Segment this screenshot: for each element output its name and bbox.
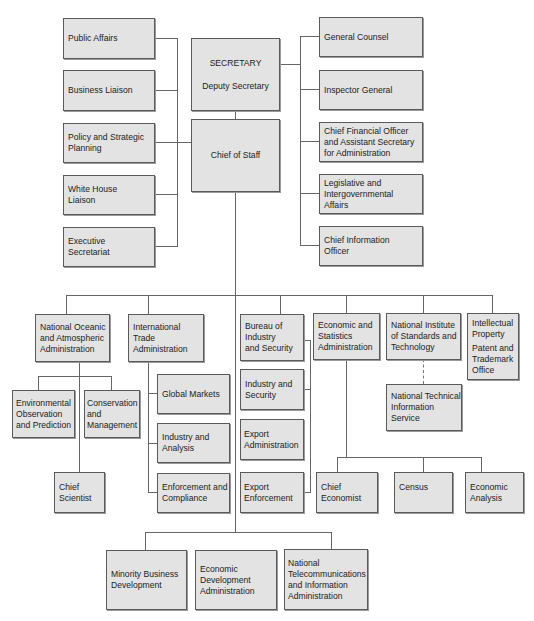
connector xyxy=(303,389,310,390)
cio-box: Chief Information Officer xyxy=(319,226,423,266)
box-label: Planning xyxy=(68,143,150,154)
noaa-box: National Oceanic and Atmospheric Adminis… xyxy=(35,314,110,362)
connector xyxy=(148,361,149,493)
connector xyxy=(310,340,311,493)
connector xyxy=(303,492,310,493)
box-label: White House xyxy=(68,184,150,195)
policy-strategic-planning-box: Policy and Strategic Planning xyxy=(63,123,155,163)
box-label: Scientist xyxy=(59,493,100,504)
chief-scientist-box: Chief Scientist xyxy=(54,472,105,513)
box-label: of Standards and xyxy=(391,331,456,342)
box-label: Compliance xyxy=(162,493,225,504)
eda-box: Economic Development Administration xyxy=(195,550,277,610)
box-label: Policy and Strategic xyxy=(68,132,150,143)
box-label: Export xyxy=(244,429,300,440)
connector xyxy=(331,532,332,549)
executive-secretariat-box: Executive Secretariat xyxy=(63,227,155,267)
box-label: Chief Financial Officer xyxy=(324,126,418,137)
box-label: Public Affairs xyxy=(68,33,150,44)
box-label: Liaison xyxy=(68,195,150,206)
box-label: Administration xyxy=(40,344,105,355)
box-label: Development xyxy=(200,575,272,586)
general-counsel-box: General Counsel xyxy=(319,17,423,57)
connector xyxy=(280,295,281,314)
box-label: General Counsel xyxy=(324,32,418,43)
deputy-secretary-title: Deputy Secretary xyxy=(202,81,268,92)
box-label: Legislative and xyxy=(324,178,418,189)
box-label: Chief xyxy=(321,482,373,493)
connector xyxy=(346,295,347,313)
box-label: National xyxy=(288,558,364,569)
connector xyxy=(300,141,319,142)
box-label: Economic and xyxy=(318,320,375,331)
box-label: Bureau of xyxy=(245,321,299,332)
white-house-liaison-box: White House Liaison xyxy=(63,175,155,215)
box-label: Business Liaison xyxy=(68,85,150,96)
box-label: Security xyxy=(245,390,299,401)
box-label: National Technical xyxy=(391,391,457,402)
box-label: and Atmospheric xyxy=(40,333,105,344)
box-label: International xyxy=(133,322,199,333)
box-label: Service xyxy=(391,413,457,424)
box-label: Administration xyxy=(288,591,364,602)
box-label: Administration xyxy=(318,342,375,353)
box-label: National Oceanic xyxy=(40,322,105,333)
global-markets-box: Global Markets xyxy=(157,374,230,414)
box-label: and Information xyxy=(288,580,364,591)
connector xyxy=(148,443,157,444)
export-administration-box: Export Administration xyxy=(240,419,304,460)
census-box: Census xyxy=(394,472,453,513)
box-label: Administration xyxy=(133,344,199,355)
inspector-general-box: Inspector General xyxy=(319,70,423,110)
box-label: Statistics xyxy=(318,331,375,342)
box-label: Information xyxy=(391,402,457,413)
legislative-affairs-box: Legislative and Intergovernmental Affair… xyxy=(319,174,423,214)
box-label: Office xyxy=(472,365,514,376)
box-label: for Administration xyxy=(324,148,418,159)
ntia-box: National Telecommunications and Informat… xyxy=(284,549,368,610)
box-label: Management xyxy=(87,420,137,431)
secretary-box: SECRETARY Deputy Secretary xyxy=(191,38,280,111)
business-liaison-box: Business Liaison xyxy=(63,70,155,111)
org-chart: SECRETARY Deputy Secretary Chief of Staf… xyxy=(0,0,534,621)
connector xyxy=(300,89,319,90)
connector xyxy=(492,295,493,313)
connector xyxy=(337,457,338,472)
box-label: Inspector General xyxy=(324,85,418,96)
connector xyxy=(148,295,149,314)
box-label: Census xyxy=(399,482,448,493)
connector xyxy=(235,191,236,533)
enforcement-compliance-box: Enforcement and Compliance xyxy=(157,473,230,513)
connector xyxy=(148,492,157,493)
box-label: Industry and xyxy=(245,379,299,390)
chief-economist-box: Chief Economist xyxy=(316,472,378,513)
dashed-connector xyxy=(423,359,424,384)
esa-box: Economic and Statistics Administration xyxy=(313,313,380,360)
uspto-box: Intellectual Property Patent and Tradema… xyxy=(467,313,519,380)
ita-box: International Trade Administration xyxy=(128,314,204,362)
connector xyxy=(111,376,112,390)
box-label: Affairs xyxy=(324,200,418,211)
chief-of-staff-title: Chief of Staff xyxy=(211,150,261,161)
box-label: Analysis xyxy=(470,493,519,504)
box-label: National Institute xyxy=(391,320,456,331)
industry-security-box: Industry and Security xyxy=(240,369,304,410)
cfo-box: Chief Financial Officer and Assistant Se… xyxy=(319,122,423,162)
box-label: Trade xyxy=(133,333,199,344)
connector xyxy=(38,376,112,377)
box-label: Telecommunications xyxy=(288,569,364,580)
box-label: Development xyxy=(111,580,182,591)
box-label: Intergovernmental xyxy=(324,189,418,200)
box-label: Analysis xyxy=(162,443,225,454)
box-label: Officer xyxy=(324,246,418,257)
box-label: Observation xyxy=(16,409,71,420)
ntis-box: National Technical Information Service xyxy=(386,384,462,431)
nist-box: National Institute of Standards and Tech… xyxy=(386,313,461,360)
connector xyxy=(38,376,39,390)
connector xyxy=(148,393,157,394)
connector xyxy=(346,359,347,458)
public-affairs-box: Public Affairs xyxy=(63,18,155,59)
connector xyxy=(423,457,424,472)
box-label: Export xyxy=(244,482,300,493)
connector xyxy=(235,110,236,119)
